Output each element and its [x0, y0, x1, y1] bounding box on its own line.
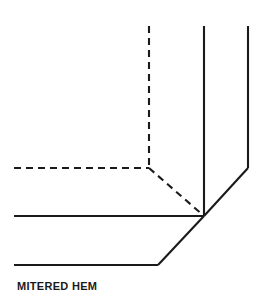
- diagram-background: [0, 0, 267, 306]
- mitered-hem-figure: MITERED HEM: [0, 0, 267, 306]
- mitered-hem-diagram: [0, 0, 267, 306]
